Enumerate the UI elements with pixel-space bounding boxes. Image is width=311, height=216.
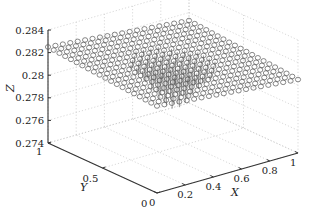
data-point-marker (154, 104, 159, 109)
data-point-marker (91, 53, 96, 58)
data-point-marker (216, 50, 221, 55)
data-point-marker (96, 39, 101, 44)
data-point-marker (238, 84, 243, 89)
data-point-marker (163, 81, 168, 86)
data-point-marker (278, 68, 283, 73)
data-point-marker (258, 84, 263, 89)
data-point-marker (227, 57, 232, 62)
data-point-marker (87, 45, 92, 50)
data-point-marker (219, 79, 224, 84)
data-point-marker (232, 43, 237, 48)
data-point-marker (236, 88, 241, 93)
data-point-marker (189, 30, 194, 35)
data-point-marker (251, 86, 256, 91)
data-point-marker (155, 28, 160, 33)
data-point-marker (195, 88, 200, 93)
data-point-marker (97, 35, 102, 40)
data-point-marker (250, 52, 255, 57)
data-point-marker (192, 97, 197, 102)
data-point-marker (150, 79, 155, 84)
tick-labels: 00.20.40.60.8100.510.2740.2760.2780.280.… (15, 25, 296, 210)
data-point-marker (79, 47, 84, 52)
data-point-marker (227, 40, 232, 45)
data-point-marker (202, 32, 207, 37)
data-point-marker (131, 75, 136, 80)
data-point-marker (68, 40, 73, 45)
data-point-marker (137, 94, 142, 99)
z-tick-label: 0.282 (15, 47, 44, 58)
data-point-marker (122, 43, 127, 48)
y-tick (157, 192, 160, 193)
data-point-marker (260, 80, 265, 85)
data-point-marker (53, 43, 58, 48)
data-point-marker (216, 67, 221, 72)
data-point-marker (171, 42, 176, 47)
data-point-marker (229, 90, 234, 95)
data-point-marker (243, 87, 248, 92)
data-point-marker (135, 45, 140, 50)
data-point-marker (193, 92, 198, 97)
back-wall-grid-line (48, 103, 189, 143)
data-point-marker (64, 49, 69, 54)
data-point-marker (114, 82, 119, 87)
data-point-marker (231, 48, 236, 53)
data-point-marker (212, 43, 217, 48)
data-point-marker (120, 85, 125, 90)
data-point-marker (161, 31, 166, 36)
data-point-marker (104, 55, 109, 60)
data-point-marker (88, 41, 93, 46)
data-point-marker (220, 58, 225, 63)
data-point-marker (97, 73, 102, 78)
data-point-marker (239, 63, 244, 68)
data-point-marker (109, 79, 114, 84)
data-point-marker (113, 49, 118, 54)
floor-grid-line (103, 128, 244, 168)
data-point-marker (60, 42, 65, 47)
data-point-marker (204, 44, 209, 49)
data-point-marker (187, 89, 192, 94)
data-point-marker (275, 77, 280, 82)
data-point-marker (233, 60, 238, 65)
data-point-marker (152, 37, 157, 42)
data-point-marker (99, 68, 104, 73)
data-point-marker (68, 57, 73, 62)
data-point-marker (192, 21, 197, 26)
data-point-marker (125, 34, 130, 39)
data-point-marker (281, 80, 286, 85)
data-point-marker (112, 70, 117, 75)
data-point-marker (164, 98, 169, 103)
data-point-marker (153, 33, 158, 38)
data-point-marker (141, 85, 146, 90)
data-point-marker (107, 46, 112, 51)
data-point-marker (189, 47, 194, 52)
data-point-marker (165, 39, 170, 44)
data-point-marker (72, 48, 77, 53)
x-tick (182, 184, 185, 186)
data-point-marker (162, 27, 167, 32)
floor-grid-line (48, 103, 189, 143)
data-point-marker (221, 91, 226, 96)
data-point-marker (94, 44, 99, 49)
data-point-marker (211, 80, 216, 85)
data-point-marker (272, 65, 277, 70)
data-point-marker (235, 72, 240, 77)
x-tick (295, 152, 298, 154)
data-point-marker (271, 69, 276, 74)
data-point-marker (114, 65, 119, 70)
data-point-marker (259, 63, 264, 68)
data-point-marker (143, 43, 148, 48)
stem3-chart: 00.20.40.60.8100.510.2740.2760.2780.280.… (0, 0, 311, 216)
data-point-marker (169, 84, 174, 89)
data-point-marker (172, 21, 177, 26)
x-tick-label: 0 (149, 197, 155, 208)
data-point-marker (150, 96, 155, 101)
data-point-marker (158, 95, 163, 100)
data-point-marker (131, 91, 136, 96)
data-point-marker (148, 30, 153, 35)
data-point-marker (137, 40, 142, 45)
data-point-marker (290, 74, 295, 79)
data-point-marker (125, 72, 130, 77)
data-point-marker (235, 55, 240, 60)
data-point-marker (106, 67, 111, 72)
data-point-marker (124, 38, 129, 43)
